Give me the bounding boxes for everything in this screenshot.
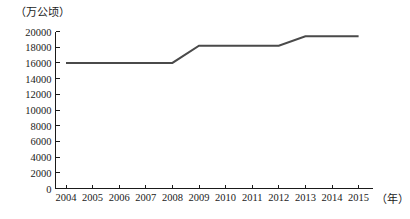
plot-area [0, 0, 410, 219]
axes [56, 32, 373, 189]
line-chart: （万公顷） （年） 020004000600080001000012000140… [0, 0, 410, 219]
data-series-line [66, 36, 359, 63]
tick-marks [56, 32, 359, 189]
